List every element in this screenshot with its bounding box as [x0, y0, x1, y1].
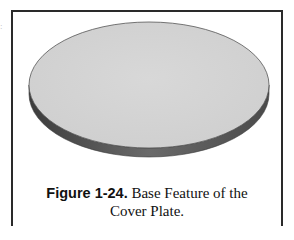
cover-plate-disc: [28, 21, 270, 163]
edge-text-fragment: :: [0, 22, 4, 40]
caption-text-1: Base Feature of the: [128, 185, 248, 201]
figure-label: Figure 1-24.: [46, 185, 127, 201]
figure-caption: Figure 1-24. Base Feature of the Cover P…: [11, 184, 283, 220]
disc-top-face: [29, 22, 269, 148]
caption-line-2: Cover Plate.: [11, 202, 283, 220]
caption-line-1: Figure 1-24. Base Feature of the: [11, 184, 283, 202]
